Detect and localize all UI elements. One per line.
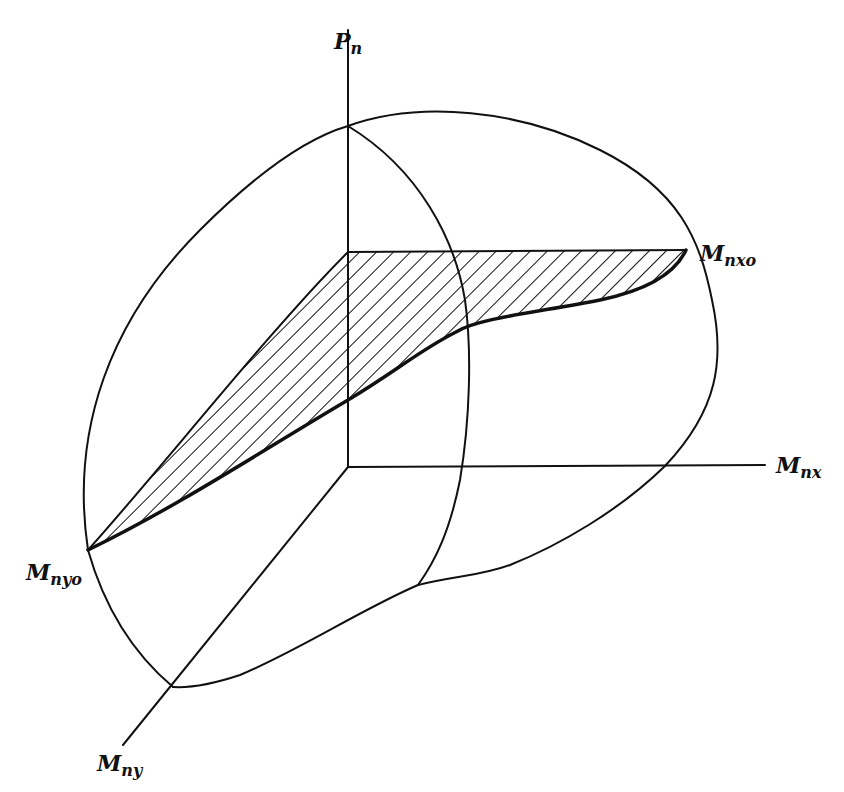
mnx-sub: nx	[800, 463, 821, 482]
mnx-axis-label: Mnx	[776, 454, 822, 481]
mny-sub: ny	[121, 761, 142, 780]
mny-axis-label: Mny	[97, 752, 142, 779]
axes	[123, 30, 765, 745]
mnxo-main: M	[700, 240, 724, 266]
mnxo-sub: nxo	[724, 251, 756, 270]
mnyo-label: Mnyo	[26, 561, 82, 588]
mnx-main: M	[776, 452, 800, 478]
mnyo-main: M	[26, 559, 50, 585]
pn-main: P	[334, 28, 351, 54]
mnyo-sub: nyo	[50, 570, 82, 589]
interaction-surface-diagram	[0, 0, 844, 792]
mny-main: M	[97, 750, 121, 776]
pn-sub: n	[351, 39, 363, 58]
mnxo-label: Mnxo	[700, 242, 756, 269]
mnx-axis	[348, 465, 765, 467]
pn-axis-label: Pn	[334, 30, 362, 57]
failure-surface-outline	[84, 112, 718, 688]
